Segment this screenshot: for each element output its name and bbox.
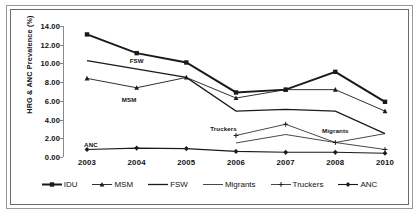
data-point-marker-plus — [234, 133, 239, 138]
y-axis-tick-labels: 0.002.004.006.008.0010.0012.0014.00 — [16, 26, 60, 157]
data-point-marker-plus — [333, 140, 338, 145]
legend-label: Migrants — [225, 180, 256, 189]
data-point-marker-diamond — [184, 146, 189, 151]
legend-marker-fsw-icon — [148, 180, 168, 189]
legend-item-migrants[interactable]: Migrants — [203, 180, 256, 189]
data-point-marker-square — [383, 100, 387, 104]
legend-label: ANC — [360, 180, 377, 189]
legend-marker-anc-icon — [338, 180, 358, 189]
y-axis-tick-label: 8.00 — [45, 78, 60, 87]
legend-marker-truckers-icon — [271, 180, 291, 189]
legend-label: Truckers — [293, 180, 324, 189]
y-axis-tick-label: 0.00 — [45, 153, 60, 162]
data-point-marker-diamond — [283, 150, 288, 155]
y-axis-tick-mark — [60, 138, 63, 139]
x-axis-tick-label: 2005 — [177, 158, 195, 167]
plot-area: FSWMSMANCTruckersMigrants — [63, 26, 393, 157]
legend-item-msm[interactable]: MSM — [92, 180, 133, 189]
legend-item-truckers[interactable]: Truckers — [271, 180, 324, 189]
plot-annotation-fsw: FSW — [130, 56, 144, 63]
x-axis-tick-label: 2003 — [78, 158, 96, 167]
data-point-marker-diamond — [333, 150, 338, 155]
series-truckers — [234, 122, 388, 152]
legend-label: IDU — [64, 180, 78, 189]
chart-figure: HRG & ANC Prevalence (%) 0.002.004.006.0… — [0, 0, 420, 216]
data-point-marker-square — [234, 90, 238, 94]
data-point-marker-square — [85, 32, 89, 36]
y-axis-tick-label: 10.00 — [40, 59, 60, 68]
chart-series-svg — [63, 26, 393, 157]
legend-marker-migrants-icon — [203, 180, 223, 189]
legend-item-fsw[interactable]: FSW — [148, 180, 188, 189]
data-point-marker-square — [333, 70, 337, 74]
data-point-marker-diamond — [346, 181, 351, 186]
y-axis-tick-label: 4.00 — [45, 115, 60, 124]
data-point-marker-square — [49, 182, 53, 186]
data-point-marker-diamond — [134, 146, 139, 151]
data-point-marker-square — [134, 51, 138, 55]
plot-annotation-anc: ANC — [84, 141, 98, 148]
chart-legend: IDUMSMFSWMigrantsTruckersANC — [10, 176, 409, 192]
x-axis-tick-label: 2010 — [376, 158, 394, 167]
y-axis-tick-mark — [60, 82, 63, 83]
data-point-marker-diamond — [383, 151, 388, 156]
plot-annotation-msm: MSM — [122, 96, 137, 103]
y-axis-tick-mark — [60, 101, 63, 102]
series-migrants — [236, 134, 385, 143]
y-axis-tick-mark — [60, 26, 63, 27]
series-anc — [85, 146, 388, 156]
y-axis-tick-mark — [60, 63, 63, 64]
x-axis-tick-labels: 2003200420052006200720082010 — [63, 158, 393, 174]
y-axis-tick-label: 12.00 — [40, 40, 60, 49]
y-axis-tick-label: 2.00 — [45, 134, 60, 143]
y-axis-tick-label: 14.00 — [40, 22, 60, 31]
legend-item-idu[interactable]: IDU — [42, 180, 78, 189]
data-point-marker-plus — [278, 182, 283, 187]
data-point-marker-triangle — [85, 76, 90, 81]
x-axis-tick-label: 2008 — [326, 158, 344, 167]
legend-marker-idu-icon — [42, 180, 62, 189]
y-axis-tick-mark — [60, 45, 63, 46]
data-point-marker-diamond — [234, 149, 239, 154]
y-axis-tick-mark — [60, 120, 63, 121]
legend-label: MSM — [114, 180, 133, 189]
x-axis-tick-label: 2007 — [277, 158, 295, 167]
y-axis-tick-label: 6.00 — [45, 96, 60, 105]
legend-marker-msm-icon — [92, 180, 112, 189]
plot-annotation-truckers: Truckers — [210, 124, 237, 131]
data-point-marker-square — [184, 60, 188, 64]
x-axis-tick-label: 2004 — [128, 158, 146, 167]
legend-item-anc[interactable]: ANC — [338, 180, 377, 189]
data-point-marker-plus — [283, 122, 288, 127]
plot-annotation-migrants: Migrants — [322, 126, 349, 133]
x-axis-tick-label: 2006 — [227, 158, 245, 167]
legend-label: FSW — [170, 180, 188, 189]
